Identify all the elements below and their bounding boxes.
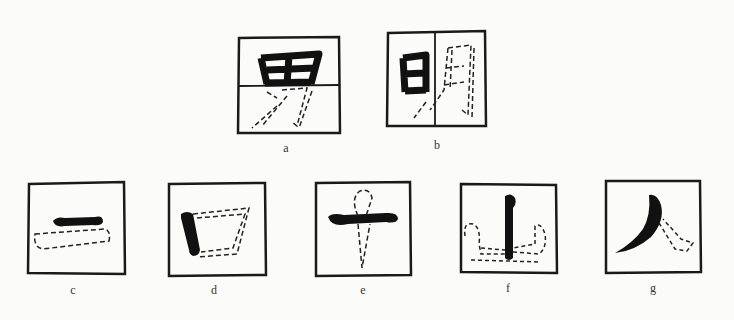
panel-b bbox=[386, 30, 487, 127]
panel-a-label: a bbox=[283, 141, 288, 156]
character-nan-diagram bbox=[237, 36, 341, 134]
panel-a bbox=[237, 36, 341, 134]
panel-e bbox=[314, 180, 412, 277]
panel-g-label: g bbox=[650, 281, 656, 296]
character-ming-diagram bbox=[386, 30, 487, 127]
character-yi-diagram bbox=[27, 181, 126, 275]
character-shi-diagram bbox=[314, 180, 412, 277]
panel-b-label: b bbox=[434, 138, 440, 153]
character-ren-diagram bbox=[603, 179, 702, 274]
panel-e-label: e bbox=[360, 283, 365, 298]
panel-c-label: c bbox=[70, 283, 75, 298]
panel-c bbox=[27, 181, 126, 275]
panel-d bbox=[167, 182, 267, 277]
character-kou-diagram bbox=[167, 182, 267, 277]
panel-d-label: d bbox=[211, 283, 217, 298]
panel-g bbox=[603, 179, 702, 274]
panel-f bbox=[459, 182, 558, 274]
character-shan-diagram bbox=[459, 182, 558, 274]
panel-f-label: f bbox=[506, 281, 510, 296]
